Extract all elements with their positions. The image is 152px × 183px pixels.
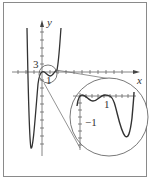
main-x-tick-1: 1	[46, 74, 52, 86]
main-x-axis	[12, 70, 136, 74]
main-y-tick-3: 3	[33, 58, 39, 70]
y-axis-label: y	[46, 16, 52, 28]
main-y-axis	[40, 24, 44, 156]
inset-y-tick-neg1: −1	[85, 116, 97, 128]
inset-x-tick-1: 1	[104, 98, 110, 110]
chart-svg: y x 3 1 1 −1	[0, 0, 152, 183]
x-axis-label: x	[136, 74, 142, 86]
y-axis-arrow-icon	[40, 20, 44, 27]
